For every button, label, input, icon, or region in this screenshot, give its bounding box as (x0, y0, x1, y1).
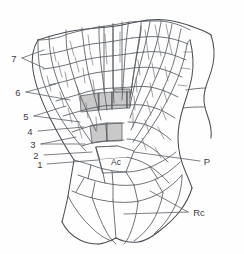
label-5: 5 (23, 111, 28, 122)
root-cap-cells (68, 152, 182, 244)
organ-outline (32, 20, 214, 244)
label-4: 4 (27, 126, 32, 137)
figure-container: 7 6 5 4 3 2 1 P Rc Ac (0, 0, 244, 254)
label-3: 3 (30, 139, 35, 150)
label-7: 7 (11, 53, 16, 64)
label-p: P (204, 156, 210, 167)
label-rc: Rc (193, 207, 205, 218)
label-1: 1 (37, 159, 42, 170)
label-6: 6 (15, 87, 20, 98)
apical-meristem-svg: 7 6 5 4 3 2 1 P Rc Ac (0, 0, 244, 254)
label-ac: Ac (111, 157, 122, 167)
left-cell-files (38, 22, 141, 151)
